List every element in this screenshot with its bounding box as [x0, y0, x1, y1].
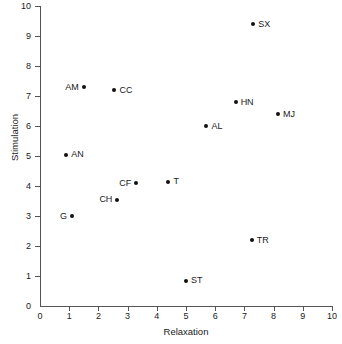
- data-point-marker: [204, 124, 208, 128]
- scatter-plot: 012345678910 012345678910 SXAMCCHNMJALAN…: [0, 0, 342, 344]
- x-tick-label: 3: [116, 311, 140, 321]
- y-tick-mark: [35, 186, 40, 187]
- data-point-label: MJ: [283, 110, 295, 119]
- data-point-label: HN: [241, 98, 254, 107]
- y-tick-mark: [35, 216, 40, 217]
- y-tick-label: 4: [7, 181, 31, 191]
- y-tick-label: 1: [7, 271, 31, 281]
- data-point-marker: [184, 279, 188, 283]
- x-tick-label: 4: [145, 311, 169, 321]
- x-tick-label: 5: [174, 311, 198, 321]
- x-tick-label: 2: [86, 311, 110, 321]
- x-axis-title: Relaxation: [40, 326, 332, 337]
- y-tick-mark: [35, 156, 40, 157]
- x-tick-label: 10: [320, 311, 342, 321]
- x-tick-label: 1: [57, 311, 81, 321]
- data-point-label: TR: [257, 236, 269, 245]
- data-point-label: AL: [211, 122, 222, 131]
- x-tick-label: 9: [291, 311, 315, 321]
- data-point-label: CH: [99, 195, 112, 204]
- data-point-label: CC: [119, 86, 132, 95]
- data-point-marker: [70, 214, 74, 218]
- data-point-label: AN: [71, 150, 84, 159]
- data-point-marker: [166, 180, 170, 184]
- y-tick-mark: [35, 6, 40, 7]
- data-point-label: ST: [191, 276, 203, 285]
- data-point-label: T: [173, 177, 179, 186]
- data-point-marker: [276, 112, 280, 116]
- data-point-label: SX: [258, 20, 270, 29]
- y-tick-mark: [35, 36, 40, 37]
- y-tick-label: 2: [7, 241, 31, 251]
- y-tick-label: 8: [7, 61, 31, 71]
- data-point-marker: [112, 88, 116, 92]
- y-tick-mark: [35, 66, 40, 67]
- y-tick-mark: [35, 276, 40, 277]
- data-point-marker: [251, 22, 255, 26]
- data-point-label: AM: [65, 83, 79, 92]
- y-tick-mark: [35, 246, 40, 247]
- y-tick-mark: [35, 96, 40, 97]
- data-point-label: CF: [119, 179, 131, 188]
- y-tick-label: 0: [7, 301, 31, 311]
- y-axis-title: Stimulation: [9, 98, 20, 178]
- y-tick-label: 10: [7, 1, 31, 11]
- y-tick-label: 3: [7, 211, 31, 221]
- y-axis-line: [40, 6, 41, 306]
- x-tick-label: 8: [262, 311, 286, 321]
- x-tick-label: 0: [28, 311, 52, 321]
- x-tick-label: 7: [232, 311, 256, 321]
- x-tick-label: 6: [203, 311, 227, 321]
- y-tick-mark: [35, 126, 40, 127]
- y-tick-label: 9: [7, 31, 31, 41]
- data-point-marker: [234, 100, 238, 104]
- data-point-label: G: [60, 212, 67, 221]
- data-point-marker: [250, 238, 254, 242]
- data-point-marker: [115, 198, 119, 202]
- data-point-marker: [134, 181, 138, 185]
- data-point-marker: [82, 85, 86, 89]
- data-point-marker: [64, 153, 68, 157]
